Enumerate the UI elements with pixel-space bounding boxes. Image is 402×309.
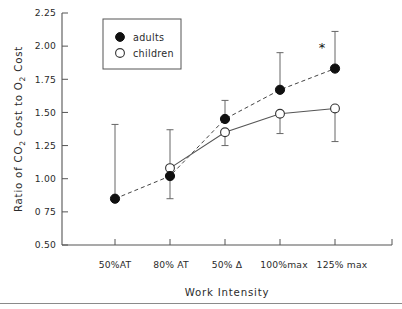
data-point-children-100max [276, 109, 285, 118]
data-point-children-125max [331, 104, 340, 113]
chart-legend: adults children [103, 19, 181, 69]
x-tick-label-0: 50%AT [99, 259, 132, 270]
y-tick-marks [62, 13, 68, 245]
x-tick-label-2: 50% Δ [212, 259, 243, 270]
y-tick-label-1: 0 75 [35, 206, 56, 217]
legend-marker-filled-circle-icon [116, 33, 125, 42]
x-tick-label-4: 125% max [317, 259, 368, 270]
series-line-children [170, 108, 335, 168]
x-tick-label-1: 80% AT [153, 259, 189, 270]
legend-label-adults: adults [133, 32, 164, 43]
y-tick-label-6: 2.00 [35, 40, 56, 51]
x-axis-title: Work Intensity [185, 287, 270, 298]
data-point-adults-125max [330, 64, 339, 73]
y-axis-title-part1: Ratio of CO [13, 146, 24, 212]
y-tick-label-2: 1.00 [35, 173, 56, 184]
y-tick-label-4: 1.50 [35, 107, 56, 118]
legend-marker-open-circle-icon [116, 49, 125, 58]
data-point-adults-100max [275, 85, 284, 94]
y-axis-title-part2: Cost to O [13, 81, 24, 140]
y-tick-label-5: 1.75 [35, 74, 56, 85]
y-axis-title-part3: Cost [13, 46, 24, 76]
data-point-adults-80at [165, 171, 174, 180]
svg-text:Ratio of CO2 Cost to O2 Cost: Ratio of CO2 Cost to O2 Cost [13, 46, 27, 212]
data-point-children-50delta [221, 128, 230, 137]
y-tick-label-3: 1.25 [35, 140, 56, 151]
legend-label-children: children [133, 48, 174, 59]
data-point-adults-50delta [220, 114, 229, 123]
x-tick-marks [115, 239, 392, 245]
y-tick-label-7: 2.25 [35, 7, 56, 18]
data-point-adults-50at [110, 194, 119, 203]
y-tick-label-0: 0.50 [35, 239, 56, 250]
y-axis-title: Ratio of CO2 Cost to O2 Cost [13, 46, 27, 212]
markers-children [166, 104, 340, 172]
x-tick-label-3: 100%max [260, 259, 308, 270]
legend-box [103, 19, 181, 69]
significance-asterisk: * [319, 40, 326, 55]
chart-svg: 0.50 0 75 1.00 1.25 1.50 1.75 2.00 2.25 … [0, 0, 402, 309]
chart-figure: 0.50 0 75 1.00 1.25 1.50 1.75 2.00 2.25 … [0, 0, 402, 309]
